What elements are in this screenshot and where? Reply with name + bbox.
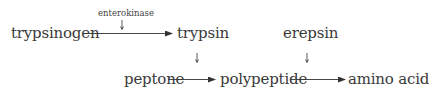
- catalyst-enterokinase: enterokinase: [98, 9, 154, 18]
- node-polypeptide: polypeptide: [220, 72, 307, 87]
- node-erepsin: erepsin: [283, 26, 338, 41]
- node-trypsinogen: trypsinogen: [11, 26, 99, 41]
- node-amino-acid: amino acid: [348, 72, 429, 87]
- node-peptone: peptone: [124, 72, 184, 87]
- node-trypsin: trypsin: [177, 26, 229, 41]
